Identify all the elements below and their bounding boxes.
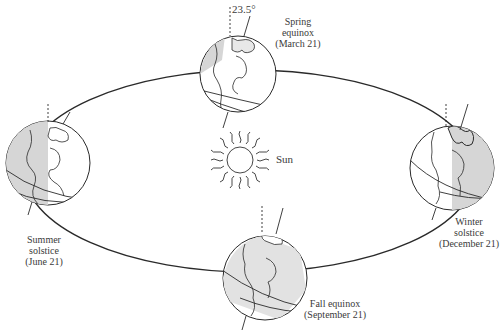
summer-type: solstice (14, 245, 74, 256)
winter-date: (December 21) (430, 238, 504, 249)
winter-type: solstice (430, 227, 504, 238)
summer-date: (June 21) (14, 256, 74, 267)
label-spring-equinox: Spring equinox (March 21) (265, 16, 331, 49)
spring-date: (March 21) (265, 38, 331, 49)
orbit-diagram (0, 0, 504, 330)
earth-winter (410, 104, 502, 225)
spring-type: equinox (265, 27, 331, 38)
sun-label: Sun (276, 154, 293, 165)
fall-date: (September 21) (295, 309, 375, 320)
summer-name: Summer (14, 234, 74, 245)
label-winter-solstice: Winter solstice (December 21) (430, 216, 504, 249)
earth-summer (0, 104, 90, 220)
tilt-angle-label: 23.5° (232, 4, 256, 15)
sun-icon (211, 131, 269, 189)
label-summer-solstice: Summer solstice (June 21) (14, 234, 74, 267)
fall-name: Fall equinox (295, 298, 375, 309)
spring-name: Spring (265, 16, 331, 27)
winter-name: Winter (430, 216, 504, 227)
label-fall-equinox: Fall equinox (September 21) (295, 298, 375, 320)
